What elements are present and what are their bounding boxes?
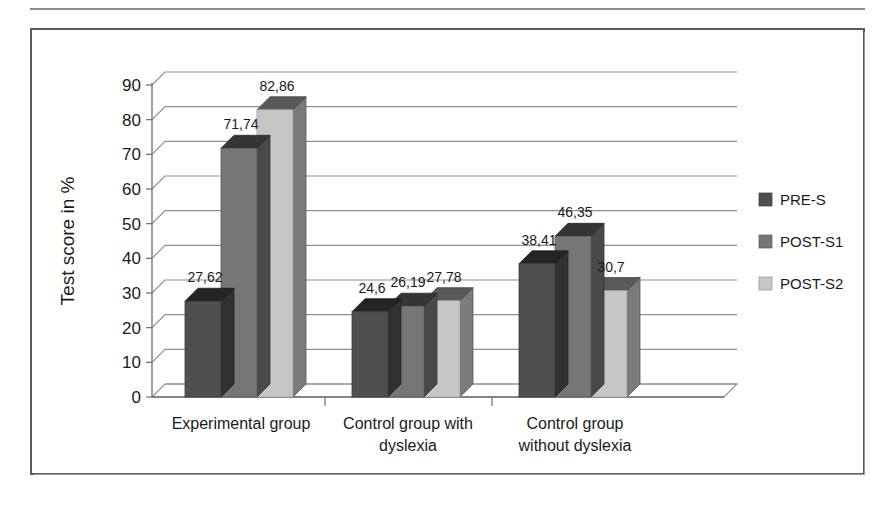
test-score-bar-chart: 0102030405060708090 27,6271,7482,8624,62… [30, 28, 865, 475]
legend-label-post-s1: POST-S1 [780, 233, 843, 250]
bar-value-label: 24,6 [358, 280, 385, 296]
y-tick-label: 80 [122, 111, 141, 130]
bar-value-label: 26,19 [390, 274, 425, 290]
y-tick-label: 30 [122, 284, 141, 303]
bar-side-face [627, 278, 640, 397]
legend-label-post-s2: POST-S2 [780, 275, 843, 292]
category-labels: Experimental groupControl group withdysl… [172, 415, 632, 454]
bar-2-pre-s[interactable] [352, 299, 401, 397]
category-label: dyslexia [379, 437, 437, 454]
bar-value-label: 30,7 [597, 259, 624, 275]
bar-side-face [460, 288, 473, 397]
legend-swatch-post-s1[interactable] [759, 235, 772, 248]
page-top-rule [30, 8, 865, 10]
bar-value-label: 46,35 [557, 204, 592, 220]
legend-swatch-post-s2[interactable] [759, 277, 772, 290]
bar-side-face [388, 299, 401, 397]
chart-legend: PRE-SPOST-S1POST-S2 [759, 191, 843, 292]
y-tick-label: 20 [122, 319, 141, 338]
y-axis-title: Test score in % [57, 176, 78, 305]
bar-value-label: 27,62 [187, 269, 222, 285]
bar-side-face [257, 135, 270, 397]
y-tick-label: 60 [122, 180, 141, 199]
category-label: Control group [527, 415, 624, 432]
bar-value-label: 38,41 [521, 232, 556, 248]
category-label: without dyslexia [518, 437, 632, 454]
bar-side-face [221, 288, 234, 397]
bar-value-label: 82,86 [259, 78, 294, 94]
gridline [152, 72, 737, 85]
bar-side-face [424, 293, 437, 397]
bar-front-face [519, 264, 555, 397]
figure-page: 0102030405060708090 27,6271,7482,8624,62… [0, 0, 890, 507]
y-axis-title-text: Test score in % [57, 176, 78, 305]
bar-side-face [555, 251, 568, 397]
y-tick-label: 0 [132, 388, 141, 407]
y-tick-label: 50 [122, 215, 141, 234]
y-tick-label: 40 [122, 249, 141, 268]
y-tick-label: 90 [122, 76, 141, 95]
bar-side-face [293, 97, 306, 397]
bar-value-label: 27,78 [426, 269, 461, 285]
legend-label-pre-s: PRE-S [780, 191, 826, 208]
y-tick-label: 70 [122, 145, 141, 164]
bar-side-face [591, 223, 604, 397]
bar-front-face [185, 301, 221, 397]
bar-front-face [352, 312, 388, 397]
bar-3-pre-s[interactable] [519, 251, 568, 397]
legend-swatch-pre-s[interactable] [759, 193, 772, 206]
category-label: Experimental group [172, 415, 311, 432]
category-label: Control group with [343, 415, 473, 432]
bar-1-pre-s[interactable] [185, 288, 234, 397]
bar-value-label: 71,74 [223, 116, 258, 132]
y-tick-label: 10 [122, 353, 141, 372]
